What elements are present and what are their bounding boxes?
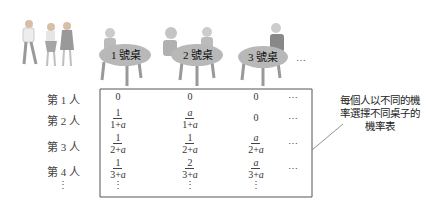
numerator: 1 — [113, 107, 122, 119]
numerator: 1 — [185, 132, 194, 144]
row-3-more-ellipsis: ⋯ — [288, 138, 298, 149]
fraction: a2+a — [248, 132, 264, 155]
row-2-more-ellipsis: ⋯ — [288, 113, 298, 124]
numerator: a — [185, 107, 194, 119]
table-2-label: 2 號桌 — [178, 48, 218, 62]
table-3-label: 3 號桌 — [243, 50, 283, 64]
standing-people-illustration — [23, 20, 74, 66]
denominator: 1+a — [110, 119, 126, 130]
row-label-person-4: 第 4 人 — [30, 163, 80, 179]
annotation-text: 每個人以不同的機 率選擇不同桌子的 機率表 — [335, 94, 424, 133]
cell-person-4-table-3: a3+a — [236, 157, 276, 180]
row-label-person-2: 第 2 人 — [30, 112, 80, 128]
column-1-vertical-ellipsis: ⋮ — [98, 183, 138, 187]
cell-person-1-table-2: 0 — [170, 92, 210, 102]
row-1-more-ellipsis: ⋯ — [288, 92, 298, 103]
denominator: 2+a — [110, 144, 126, 155]
row-label-person-1: 第 1 人 — [30, 91, 80, 107]
fraction: a1+a — [182, 107, 198, 130]
fraction: 23+a — [182, 157, 198, 180]
cell-person-4-table-1: 13+a — [98, 157, 138, 180]
cell-person-3-table-1: 12+a — [98, 132, 138, 155]
column-3-vertical-ellipsis: ⋮ — [236, 183, 276, 187]
denominator: 2+a — [182, 144, 198, 155]
numerator: 1 — [113, 157, 122, 169]
row-4-more-ellipsis: ⋯ — [288, 163, 298, 174]
numerator: a — [251, 157, 260, 169]
cell-person-2-table-3: 0 — [236, 113, 276, 123]
cell-person-1-table-3: 0 — [236, 92, 276, 102]
numerator: 1 — [113, 132, 122, 144]
denominator: 1+a — [182, 119, 198, 130]
annotation-line-2: 率選擇不同桌子的 — [335, 107, 424, 120]
numerator: a — [251, 132, 260, 144]
row-label-vertical-ellipsis: ⋮ — [43, 183, 83, 187]
annotation-line-3: 機率表 — [335, 120, 424, 133]
fraction: 12+a — [110, 132, 126, 155]
fraction: 12+a — [182, 132, 198, 155]
column-2-vertical-ellipsis: ⋮ — [170, 183, 210, 187]
row-label-person-3: 第 3 人 — [30, 138, 80, 154]
fraction: 13+a — [110, 157, 126, 180]
cell-person-3-table-3: a2+a — [236, 132, 276, 155]
numerator: 2 — [185, 157, 194, 169]
table-1-label: 1 號桌 — [106, 48, 146, 62]
cell-person-3-table-2: 12+a — [170, 132, 210, 155]
annotation-line-1: 每個人以不同的機 — [335, 94, 424, 107]
cell-person-2-table-1: 11+a — [98, 107, 138, 130]
fraction: 11+a — [110, 107, 126, 130]
cell-person-2-table-2: a1+a — [170, 107, 210, 130]
more-tables-ellipsis: … — [296, 52, 306, 63]
cell-person-1-table-1: 0 — [98, 92, 138, 102]
denominator: 2+a — [248, 144, 264, 155]
fraction: a3+a — [248, 157, 264, 180]
cell-person-4-table-2: 23+a — [170, 157, 210, 180]
